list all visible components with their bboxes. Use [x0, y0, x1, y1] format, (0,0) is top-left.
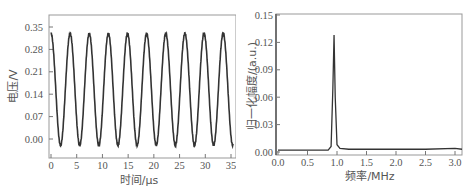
x-tick-label: 20: [149, 160, 160, 171]
x-axis-ticks: 0.00.51.01.52.02.53.0: [271, 151, 461, 168]
y-axis-title: 归一化幅度/(a.u.): [245, 42, 259, 130]
voltage-waveform-line: [51, 32, 233, 146]
y-tick-label: 0.35: [25, 22, 43, 33]
x-axis-title: 时间/μs: [120, 174, 159, 187]
x-tick-label: 2.5: [419, 157, 432, 168]
time-domain-plot: 0.000.070.140.210.280.35 05101520253035 …: [0, 0, 236, 193]
x-tick-label: 2.0: [389, 157, 402, 168]
y-tick-label: 0.28: [25, 44, 43, 55]
x-tick-label: 30: [200, 160, 211, 171]
y-tick-label: 0.07: [25, 111, 43, 122]
x-tick-label: 10: [97, 160, 108, 171]
y-tick-label: 0.00: [25, 134, 43, 145]
spectrum-plot: 0.000.030.060.090.120.15 0.00.51.01.52.0…: [236, 0, 472, 193]
frequency-domain-chart: 0.000.030.060.090.120.15 0.00.51.01.52.0…: [236, 0, 472, 193]
x-tick-label: 0.5: [301, 157, 314, 168]
x-tick-label: 15: [123, 160, 134, 171]
y-tick-label: 0.21: [25, 66, 43, 77]
y-tick-label: 0.14: [25, 89, 44, 100]
x-axis-ticks: 05101520253035: [48, 154, 236, 171]
x-tick-label: 35: [226, 160, 236, 171]
x-axis-title: 频率/MHz: [345, 169, 394, 183]
x-tick-label: 5: [74, 160, 79, 171]
x-tick-label: 1.0: [330, 157, 343, 168]
y-tick-label: 0.15: [255, 10, 273, 21]
time-domain-chart: 0.000.070.140.210.280.35 05101520253035 …: [0, 0, 236, 193]
plot-frame: [276, 14, 462, 155]
x-tick-label: 0.0: [271, 157, 284, 168]
y-axis-title: 电压/V: [7, 69, 20, 103]
x-tick-label: 3.0: [448, 157, 461, 168]
x-tick-label: 25: [174, 160, 185, 171]
y-tick-label: 0.00: [255, 147, 273, 158]
x-tick-label: 0: [48, 160, 53, 171]
x-tick-label: 1.5: [360, 157, 373, 168]
spectrum-line: [278, 35, 462, 150]
